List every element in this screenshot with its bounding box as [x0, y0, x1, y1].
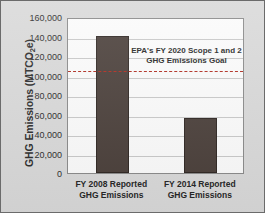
y-axis-tick-40000: 40,000: [15, 130, 62, 140]
x-axis-category-1: FY 2014 ReportedGHG Emissions: [156, 179, 245, 201]
x-axis-category-0-line-0: FY 2008 Reported: [67, 179, 156, 190]
y-axis-tick-160000: 160,000: [15, 13, 62, 23]
x-axis-category-0: FY 2008 ReportedGHG Emissions: [67, 179, 156, 201]
x-axis-category-1-line-0: FY 2014 Reported: [156, 179, 245, 190]
y-axis-tick-60000: 60,000: [15, 111, 62, 121]
y-axis-tick-0: 0: [15, 169, 62, 179]
goal-annotation-line-1: GHG Emissions Goal: [124, 56, 249, 66]
x-axis-category-1-line-1: GHG Emissions: [156, 190, 245, 201]
y-axis-tick-100000: 100,000: [15, 72, 62, 82]
goal-annotation: EPA's FY 2020 Scope 1 and 2GHG Emissions…: [124, 46, 249, 66]
epa-fy2020-goal-line: [68, 71, 243, 72]
bar-1: [184, 118, 217, 173]
y-axis-tick-80000: 80,000: [15, 91, 62, 101]
goal-annotation-line-0: EPA's FY 2020 Scope 1 and 2: [124, 46, 249, 56]
y-axis-tick-labels: 020,00040,00060,00080,000100,000120,0001…: [15, 1, 62, 213]
chart-figure: GHG Emissions (MTCO2e) 020,00040,00060,0…: [0, 0, 265, 213]
y-axis-tick-20000: 20,000: [15, 150, 62, 160]
plot-area: EPA's FY 2020 Scope 1 and 2GHG Emissions…: [67, 18, 244, 174]
x-axis-category-0-line-1: GHG Emissions: [67, 190, 156, 201]
y-axis-tick-140000: 140,000: [15, 33, 62, 43]
y-axis-tick-120000: 120,000: [15, 52, 62, 62]
gridline: [68, 78, 243, 79]
gridline: [68, 39, 243, 40]
gridline: [68, 97, 243, 98]
